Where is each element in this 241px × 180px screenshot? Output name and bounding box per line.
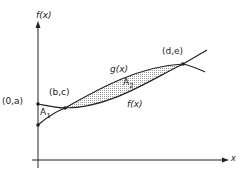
point-0-a [36,102,40,106]
x-axis-arrow-icon [222,158,229,163]
area-between-curves-diagram: f(x) x (0,a) (b,c) (d,e) g(x) f(x) A1 A2 [0,0,241,180]
curve-label-f: f(x) [127,100,143,109]
point-b-c [63,106,67,110]
region-a1-subscript: 1 [46,112,50,120]
diagram-canvas [0,0,241,180]
point-label-d-e: (d,e) [162,47,183,56]
region-label-a1: A1 [40,108,51,120]
point-label-b-c: (b,c) [49,88,70,97]
y-axis-label: f(x) [36,11,52,20]
region-a2-subscript: 2 [129,82,133,90]
x-axis-label: x [231,155,236,163]
y-axis-arrow-icon [36,21,41,28]
point-f-intercept [36,123,40,127]
point-label-0-a: (0,a) [2,97,23,106]
region-label-a2: A2 [123,78,134,90]
point-d-e [181,62,185,66]
curve-label-g: g(x) [110,65,128,74]
